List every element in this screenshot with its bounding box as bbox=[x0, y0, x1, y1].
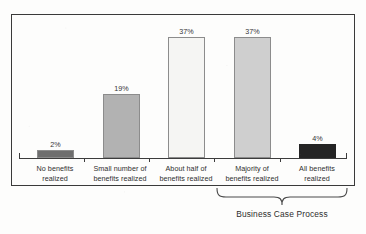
x-axis-category-label: Small number of benefits realized bbox=[87, 164, 153, 183]
bar-value-label: 4% bbox=[299, 134, 336, 143]
x-axis-category-label: Majority of benefits realized bbox=[219, 164, 285, 183]
x-axis-category-label: About half of benefits realized bbox=[153, 164, 219, 183]
bar-value-label: 2% bbox=[37, 140, 74, 149]
bar-all-benefits-realized bbox=[299, 144, 336, 158]
annotation-brace bbox=[216, 188, 348, 206]
curly-brace-icon bbox=[216, 188, 348, 206]
x-axis-tick bbox=[84, 158, 85, 162]
plot-area: 2% 19% 37% 37% 4% No benefits realized S… bbox=[11, 14, 355, 186]
bar-no-benefits-realized bbox=[37, 150, 74, 158]
chart-page: 2% 19% 37% 37% 4% No benefits realized S… bbox=[0, 0, 366, 234]
bar-small-number-of-benefits-realized bbox=[103, 94, 140, 158]
x-axis-tick bbox=[214, 158, 215, 162]
x-axis-baseline bbox=[19, 158, 347, 159]
x-axis-tick bbox=[280, 158, 281, 162]
bar-value-label: 37% bbox=[168, 27, 205, 36]
annotation-label: Business Case Process bbox=[206, 209, 358, 219]
bar-about-half-of-benefits-realized bbox=[168, 37, 205, 158]
axis-end-cap-left bbox=[19, 153, 20, 159]
bar-value-label: 37% bbox=[234, 27, 271, 36]
x-axis-category-label: No benefits realized bbox=[23, 164, 87, 183]
bar-value-label: 19% bbox=[103, 84, 140, 93]
x-axis-tick bbox=[149, 158, 150, 162]
x-axis-category-label: All benefits realized bbox=[285, 164, 349, 183]
bar-majority-of-benefits-realized bbox=[234, 37, 271, 158]
axis-end-cap-right bbox=[346, 153, 347, 159]
